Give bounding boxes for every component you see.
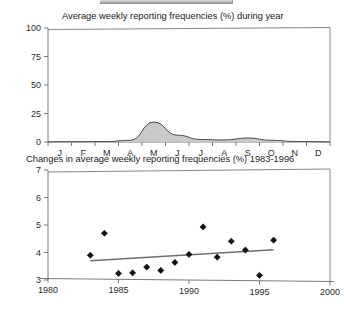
data-point-marker — [130, 270, 136, 276]
y-tick-label: 50 — [31, 80, 41, 90]
data-point-marker — [271, 237, 277, 243]
frequencies-svg: Average weekly reporting frequencies (%)… — [0, 8, 344, 158]
data-point-marker — [158, 267, 164, 273]
y-tick-label: 4 — [36, 248, 41, 258]
x-tick-label-year: 1995 — [249, 287, 269, 297]
x-axis-spine — [40, 279, 334, 282]
chart-changes-in-reporting-frequencies: Changes in average weekly reporting freq… — [0, 152, 344, 310]
data-point-marker — [228, 238, 234, 244]
changes-y-axis: 34567 — [36, 165, 48, 285]
y-tick-label: 6 — [36, 193, 41, 203]
data-point-marker — [186, 251, 192, 257]
data-point-marker — [172, 259, 178, 265]
page-root: Average weekly reporting frequencies (%)… — [0, 0, 344, 310]
x-tick-label-year: 1990 — [179, 286, 199, 296]
y-tick-label: 5 — [36, 220, 41, 230]
changes-x-axis: 19801985199019952000 — [38, 279, 340, 298]
x-tick-label-year: 1980 — [38, 285, 58, 295]
plot-frame-path — [48, 28, 330, 143]
frequencies-area-series — [48, 122, 330, 142]
chart-average-weekly-reporting-frequencies: Average weekly reporting frequencies (%)… — [0, 8, 344, 158]
data-point-marker — [200, 224, 206, 230]
x-tick-label-year: 1985 — [108, 285, 128, 295]
changes-plot-frame — [48, 169, 330, 281]
frequencies-plot-frame — [48, 28, 330, 143]
y-tick-label: 7 — [36, 165, 41, 175]
frequencies-y-axis: 0255075100 — [26, 23, 48, 147]
y-tick-label: 25 — [31, 109, 41, 119]
y-tick-label: 75 — [31, 52, 41, 62]
y-tick-label: 100 — [26, 23, 41, 33]
changes-svg: Changes in average weekly reporting freq… — [0, 152, 344, 310]
data-point-marker — [87, 252, 93, 258]
plot-frame-path — [48, 169, 330, 281]
data-point-marker — [115, 270, 121, 276]
y-tick-label: 0 — [36, 137, 41, 147]
data-point-marker — [256, 272, 262, 278]
changes-chart-title: Changes in average weekly reporting freq… — [26, 154, 294, 164]
data-point-marker — [101, 230, 107, 236]
frequencies-chart-title: Average weekly reporting frequencies (%)… — [62, 11, 284, 21]
data-point-marker — [144, 264, 150, 270]
data-point-marker — [214, 254, 220, 260]
x-tick-label-year: 2000 — [320, 287, 340, 297]
top-cropped-strip — [100, 0, 233, 4]
